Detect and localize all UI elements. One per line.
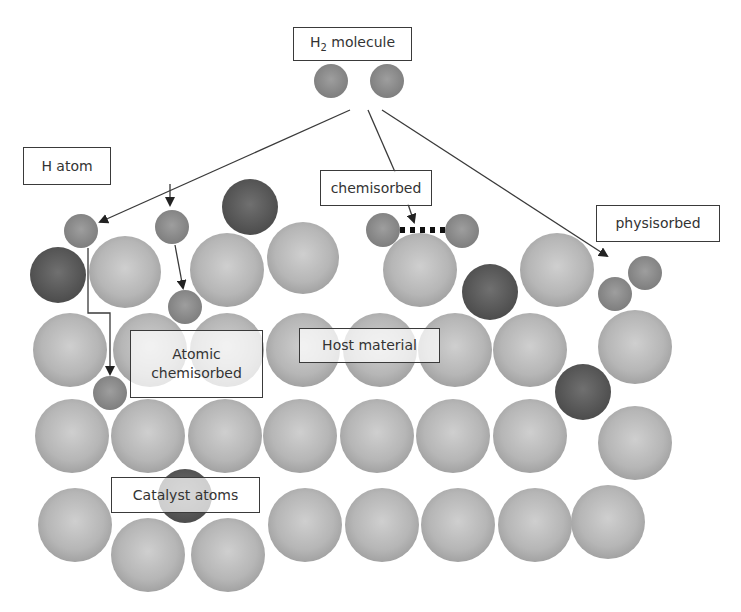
- catalyst-atom: [555, 364, 611, 420]
- catalyst-atom: [30, 247, 86, 303]
- atomic-text: Atomic: [172, 345, 221, 364]
- hydrogen-adsorption-diagram: [0, 0, 741, 612]
- label-host-material: Host material: [299, 328, 440, 363]
- host-atom: [267, 222, 339, 294]
- physisorbed-text: physisorbed: [615, 214, 700, 233]
- chemisorbed-text: chemisorbed: [331, 179, 422, 198]
- host-atom: [493, 313, 567, 387]
- host-atom: [383, 233, 457, 307]
- label-catalyst-atoms: Catalyst atoms: [111, 477, 260, 513]
- host-atom: [33, 313, 107, 387]
- host-atom: [498, 488, 572, 562]
- host-material-text: Host material: [322, 336, 417, 355]
- host-atom: [35, 399, 109, 473]
- host-atom: [111, 518, 185, 592]
- h2-text: H2 molecule: [310, 33, 395, 54]
- host-atom: [493, 399, 567, 473]
- hydrogen-atom: [598, 277, 632, 311]
- label-chemisorbed: chemisorbed: [320, 170, 432, 206]
- host-atom: [520, 233, 594, 307]
- hydrogen-atom: [366, 213, 400, 247]
- hydrogen-atom: [64, 214, 98, 248]
- host-atom: [89, 236, 161, 308]
- host-atom: [190, 233, 264, 307]
- host-atom: [345, 488, 419, 562]
- host-atom: [38, 488, 112, 562]
- arrow-h-diffuse: [175, 245, 183, 288]
- label-physisorbed: physisorbed: [596, 205, 720, 242]
- hydrogen-atom: [93, 376, 127, 410]
- label-h-atom: H atom: [23, 147, 111, 185]
- host-atom: [268, 488, 342, 562]
- hydrogen-atom: [168, 290, 202, 324]
- atomic-chemisorbed-text: chemisorbed: [151, 364, 242, 383]
- label-atomic-chemisorbed: Atomic chemisorbed: [130, 330, 263, 398]
- hydrogen-atom: [314, 64, 348, 98]
- hydrogen-atom: [155, 210, 189, 244]
- host-atom: [598, 310, 672, 384]
- catalyst-atom: [222, 179, 278, 235]
- host-atom: [340, 399, 414, 473]
- host-atom: [111, 399, 185, 473]
- label-h2-molecule: H2 molecule: [293, 27, 412, 61]
- hydrogen-atom: [628, 256, 662, 290]
- hydrogen-atom: [370, 64, 404, 98]
- host-atom: [191, 518, 265, 592]
- host-atom: [421, 488, 495, 562]
- host-atom: [571, 485, 645, 559]
- hydrogen-atom: [445, 214, 479, 248]
- host-atom: [598, 406, 672, 480]
- catalyst-atoms-text: Catalyst atoms: [133, 486, 238, 505]
- h-atom-text: H atom: [41, 157, 92, 176]
- host-atom: [263, 399, 337, 473]
- host-atom: [416, 399, 490, 473]
- arrow-to-chemisorbed: [368, 110, 395, 172]
- host-atom: [188, 399, 262, 473]
- arrow-chemisorbed-bond: [408, 204, 414, 222]
- catalyst-atom: [462, 264, 518, 320]
